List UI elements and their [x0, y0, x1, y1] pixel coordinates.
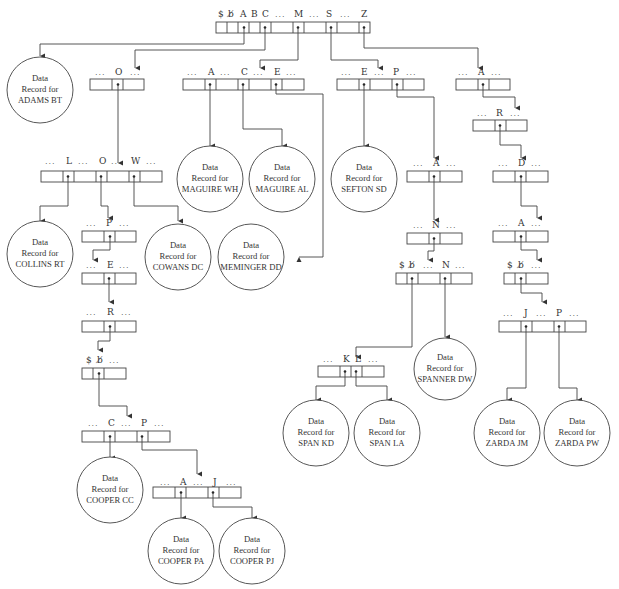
svg-text:P: P — [106, 218, 112, 228]
svg-text:Z: Z — [361, 9, 367, 19]
svg-text:...: ... — [413, 221, 424, 230]
svg-text:...: ... — [340, 10, 351, 19]
record-spanner: Data Record for SPANNER DW — [414, 338, 476, 400]
svg-text:E: E — [274, 67, 281, 77]
svg-text:b̸: b̸ — [408, 260, 415, 270]
svg-text:...: ... — [193, 478, 204, 487]
record-zarda-pw: Data Record for ZARDA PW — [544, 400, 610, 466]
node-SP: ... A ... — [407, 158, 462, 182]
svg-text:A: A — [239, 9, 247, 19]
svg-text:...: ... — [531, 219, 542, 228]
svg-text:Data: Data — [202, 162, 218, 172]
svg-text:...: ... — [477, 109, 488, 118]
svg-text:S: S — [326, 9, 332, 19]
svg-text:N: N — [442, 260, 450, 270]
svg-text:Data: Data — [32, 237, 48, 247]
svg-text:Record for: Record for — [163, 545, 200, 555]
svg-text:SPANNER DW: SPANNER DW — [418, 374, 474, 384]
svg-text:L: L — [355, 354, 361, 364]
svg-text:...: ... — [374, 68, 385, 77]
svg-text:...: ... — [160, 478, 171, 487]
record-maguire-wh: Data Record for MAGUIRE WH — [177, 146, 243, 212]
svg-text:Data: Data — [102, 473, 118, 483]
record-zarda-jm: Data Record for ZARDA JM — [474, 400, 540, 466]
node-M: ... A ... C ... E ... — [183, 67, 304, 90]
svg-text:...: ... — [45, 157, 56, 166]
svg-text:...: ... — [406, 68, 417, 77]
svg-text:Record for: Record for — [369, 427, 406, 437]
svg-text:E: E — [361, 67, 368, 77]
record-cooper-pj: Data Record for COOPER PJ — [219, 518, 285, 584]
svg-text:A: A — [432, 158, 440, 168]
svg-text:...: ... — [220, 68, 231, 77]
svg-text:A: A — [207, 67, 215, 77]
node-SPAN: $ b̸ ... N ... — [396, 260, 472, 284]
svg-text:...: ... — [111, 157, 122, 166]
svg-text:...: ... — [121, 308, 132, 317]
svg-text:Data: Data — [569, 416, 585, 426]
svg-text:...: ... — [88, 419, 99, 428]
node-ZAR: ... D ... — [493, 158, 548, 182]
node-COOPER-P: ... A ... J ... — [153, 477, 241, 498]
svg-text:COLLINS RT: COLLINS RT — [16, 259, 66, 269]
svg-text:Data: Data — [379, 416, 395, 426]
svg-text:...: ... — [323, 355, 334, 364]
svg-text:MAGUIRE AL: MAGUIRE AL — [255, 184, 308, 194]
svg-text:Data: Data — [243, 240, 259, 250]
svg-text:R: R — [496, 108, 503, 118]
svg-text:R: R — [107, 307, 114, 317]
svg-text:Record for: Record for — [346, 173, 383, 183]
svg-text:b̸: b̸ — [96, 355, 103, 365]
svg-text:Record for: Record for — [192, 173, 229, 183]
svg-text:O: O — [115, 67, 122, 77]
svg-text:...: ... — [253, 68, 264, 77]
svg-text:C: C — [262, 9, 269, 19]
svg-text:...: ... — [531, 159, 542, 168]
svg-text:...: ... — [446, 159, 457, 168]
node-COOPER: $ b̸ ... — [82, 355, 126, 379]
record-collins: Data Record for COLLINS RT — [7, 221, 73, 287]
svg-text:...: ... — [86, 261, 97, 270]
svg-text:...: ... — [121, 419, 132, 428]
svg-text:...: ... — [146, 157, 157, 166]
svg-text:K: K — [343, 354, 350, 364]
svg-text:ZARDA PW: ZARDA PW — [555, 438, 600, 448]
svg-text:Record for: Record for — [22, 84, 59, 94]
svg-text:$: $ — [399, 260, 405, 270]
svg-text:Data: Data — [274, 162, 290, 172]
svg-text:...: ... — [187, 68, 198, 77]
svg-text:SEFTON SD: SEFTON SD — [341, 184, 386, 194]
svg-text:M: M — [294, 9, 303, 19]
record-sefton: Data Record for SEFTON SD — [331, 146, 397, 212]
svg-text:O: O — [99, 156, 106, 166]
svg-text:...: ... — [130, 68, 141, 77]
svg-text:$: $ — [507, 260, 513, 270]
svg-text:...: ... — [531, 261, 542, 270]
svg-text:P: P — [141, 418, 147, 428]
svg-text:SPAN KD: SPAN KD — [298, 438, 334, 448]
svg-text:...: ... — [423, 261, 434, 270]
svg-text:$: $ — [86, 355, 92, 365]
svg-text:Data: Data — [244, 534, 260, 544]
node-COO: ... P ... — [82, 218, 136, 242]
svg-text:Record for: Record for — [559, 427, 596, 437]
svg-text:...: ... — [78, 157, 89, 166]
node-COOPE: ... R ... — [82, 307, 136, 332]
svg-text:...: ... — [95, 68, 106, 77]
svg-text:C: C — [108, 418, 115, 428]
node-A: ... O ... — [90, 67, 144, 90]
svg-text:P: P — [393, 67, 399, 77]
record-meminger: Data Record for MEMINGER DD — [218, 224, 284, 290]
trie-diagram: $ b̸ A B C ... M ... S ... Z Data Record… — [0, 0, 619, 589]
svg-text:Data: Data — [356, 162, 372, 172]
svg-text:ZARDA JM: ZARDA JM — [486, 438, 529, 448]
svg-text:P: P — [556, 308, 562, 318]
record-cooper-pa: Data Record for COOPER PA — [148, 518, 214, 584]
svg-text:...: ... — [226, 478, 237, 487]
record-span-kd: Data Record for SPAN KD — [283, 400, 349, 466]
record-span-la: Data Record for SPAN LA — [354, 400, 420, 466]
svg-text:J: J — [523, 308, 528, 318]
svg-text:Record for: Record for — [22, 248, 59, 258]
record-adams: Data Record for ADAMS BT — [7, 57, 73, 123]
svg-text:COOPER PJ: COOPER PJ — [230, 556, 275, 566]
